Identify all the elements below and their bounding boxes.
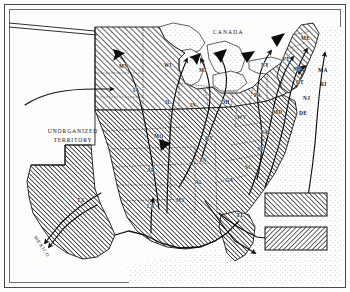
texas-region	[27, 145, 115, 259]
map-legend: Free State Slave State	[267, 201, 331, 261]
legend-item-slave: Slave State	[267, 231, 331, 254]
map-canvas: CANADA UNORGANIZED TERRITORY MEXICO MEVT…	[9, 9, 341, 283]
legend-item-free: Free State	[267, 201, 331, 224]
historical-map-figure: CANADA UNORGANIZED TERRITORY MEXICO MEVT…	[0, 0, 350, 292]
territory-boundary	[9, 23, 97, 165]
